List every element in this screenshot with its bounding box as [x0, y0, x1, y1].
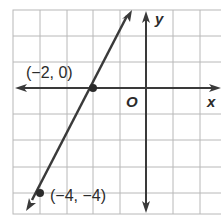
- grid: [13, 10, 221, 214]
- x-axis-label: x: [206, 93, 216, 110]
- coordinate-plane: (−2, 0) (−4, −4) O y x: [0, 0, 221, 222]
- y-axis-label: y: [154, 10, 164, 27]
- grid-frame: [13, 10, 221, 214]
- graph-line: [26, 10, 132, 211]
- point-b-marker: [36, 189, 44, 197]
- point-a-marker: [89, 84, 97, 92]
- point-a-label: (−2, 0): [26, 64, 73, 81]
- x-axis: [15, 84, 221, 92]
- y-axis: [142, 11, 150, 213]
- line-down-arrow-icon: [26, 198, 36, 211]
- origin-label: O: [126, 93, 138, 110]
- point-b-label: (−4, −4): [50, 187, 106, 204]
